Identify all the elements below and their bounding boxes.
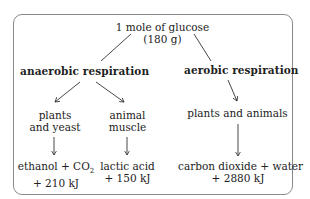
subscript: 2 xyxy=(90,167,94,175)
organism-text: plants xyxy=(25,109,85,121)
arrow-anaerobic-plants xyxy=(55,82,80,102)
product-text: carbon dioxide + water xyxy=(178,160,298,172)
energy-text: + 150 kJ xyxy=(100,172,155,184)
root-node: 1 mole of glucose (180 g) xyxy=(110,21,215,45)
product-text: ethanol + CO xyxy=(18,160,90,172)
arrow-anaerobic-muscle xyxy=(96,82,124,102)
root-mass: (180 g) xyxy=(110,33,215,45)
animal-muscle-node: animal muscle xyxy=(100,109,155,133)
organism-text: muscle xyxy=(100,121,155,133)
anaerobic-label: anaerobic respiration xyxy=(20,65,145,77)
arrow-aerobic-plants-animals xyxy=(228,80,237,101)
lactic-product: lactic acid + 150 kJ xyxy=(100,160,155,184)
energy-text: + 210 kJ xyxy=(17,177,95,189)
organism-text: animal xyxy=(100,109,155,121)
ethanol-product: ethanol + CO2 + 210 kJ xyxy=(17,160,95,189)
organism-text: and yeast xyxy=(25,121,85,133)
plants-animals-node: plants and animals xyxy=(185,107,290,119)
aerobic-label: aerobic respiration xyxy=(184,64,290,76)
root-label: 1 mole of glucose xyxy=(110,21,215,33)
plants-yeast-node: plants and yeast xyxy=(25,109,85,133)
co2-water-product: carbon dioxide + water + 2880 kJ xyxy=(178,160,298,184)
energy-text: + 2880 kJ xyxy=(178,172,298,184)
product-text: lactic acid xyxy=(100,160,155,172)
